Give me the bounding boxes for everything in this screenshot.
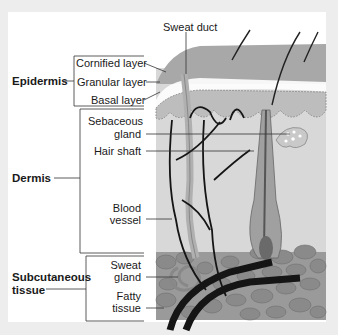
group-subcutaneous-line2: tissue bbox=[12, 284, 45, 296]
label-sweat-duct: Sweat duct bbox=[163, 21, 217, 33]
label-fatty-tissue-1: Fatty bbox=[88, 290, 141, 302]
label-granular-layer: Granular layer bbox=[77, 76, 147, 88]
label-cornified-layer: Cornified layer bbox=[76, 57, 147, 69]
label-sebaceous-gland-1: Sebaceous bbox=[88, 115, 141, 127]
group-subcutaneous-line1: Subcutaneous bbox=[12, 271, 91, 283]
group-epidermis: Epidermis bbox=[12, 75, 68, 87]
label-fatty-tissue-2: tissue bbox=[88, 302, 141, 314]
group-dermis: Dermis bbox=[12, 172, 51, 184]
label-hair-shaft: Hair shaft bbox=[88, 145, 141, 157]
label-sweat-gland-2: gland bbox=[88, 271, 141, 283]
label-basal-layer: Basal layer bbox=[91, 94, 145, 106]
label-blood-vessel-2: vessel bbox=[88, 214, 141, 226]
label-sebaceous-gland-2: gland bbox=[88, 128, 141, 140]
skin-illustration bbox=[0, 0, 338, 335]
label-sweat-gland-1: Sweat bbox=[88, 259, 141, 271]
label-blood-vessel-1: Blood bbox=[88, 202, 141, 214]
